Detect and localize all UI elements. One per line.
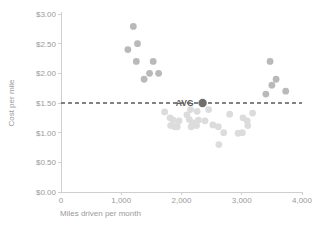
data-series <box>198 99 206 107</box>
data-point <box>194 108 201 115</box>
x-tick-label: 4,000 <box>292 196 313 205</box>
data-point <box>161 109 168 116</box>
data-point <box>124 46 131 53</box>
data-point <box>267 58 274 65</box>
data-point <box>226 111 233 118</box>
data-point <box>268 82 275 89</box>
data-point <box>134 40 141 47</box>
data-series <box>262 58 289 97</box>
scatter-chart-container: $0.00$0.50$1.00$1.50$2.00$2.50$3.00 01,0… <box>0 0 329 238</box>
x-axis-title: Miles driven per month <box>60 209 141 218</box>
data-point <box>273 76 280 83</box>
y-tick-label: $0.00 <box>36 188 57 197</box>
data-point <box>205 106 212 113</box>
x-tick-label: 1,000 <box>111 196 132 205</box>
average-reference-line: AVG <box>61 98 302 108</box>
data-point <box>146 70 153 77</box>
x-tick-label: 3,000 <box>232 196 253 205</box>
data-point <box>155 70 162 77</box>
data-point <box>244 122 251 129</box>
data-point <box>262 91 269 98</box>
data-point <box>249 110 256 117</box>
data-point <box>202 117 209 124</box>
data-point <box>141 76 148 83</box>
data-point <box>220 129 227 136</box>
avg-data-point <box>198 99 206 107</box>
y-tick-label: $1.00 <box>36 129 57 138</box>
data-series <box>161 106 256 148</box>
data-point <box>187 106 194 113</box>
data-point <box>176 117 183 124</box>
y-tick-label: $3.00 <box>36 10 57 19</box>
data-point <box>282 88 289 95</box>
data-point <box>215 141 222 148</box>
y-axis-tick-labels: $0.00$0.50$1.00$1.50$2.00$2.50$3.00 <box>36 10 57 197</box>
y-tick-label: $0.50 <box>36 158 57 167</box>
y-tick-label: $2.00 <box>36 69 57 78</box>
x-axis-tick-labels: 01,0002,0003,0004,000 <box>59 196 313 205</box>
x-tick-label: 2,000 <box>171 196 192 205</box>
data-point-layer <box>124 23 289 148</box>
y-axis-title: Cost per mile <box>7 79 16 127</box>
scatter-plot: $0.00$0.50$1.00$1.50$2.00$2.50$3.00 01,0… <box>0 0 329 238</box>
data-point <box>239 129 246 136</box>
y-tick-label: $1.50 <box>36 99 57 108</box>
data-point <box>150 58 157 65</box>
data-point <box>215 123 222 130</box>
y-tick-label: $2.50 <box>36 40 57 49</box>
data-series <box>124 23 162 83</box>
x-tick-label: 0 <box>59 196 64 205</box>
data-point <box>130 23 137 30</box>
data-point <box>133 58 140 65</box>
data-point <box>174 123 181 130</box>
data-point <box>193 122 200 129</box>
